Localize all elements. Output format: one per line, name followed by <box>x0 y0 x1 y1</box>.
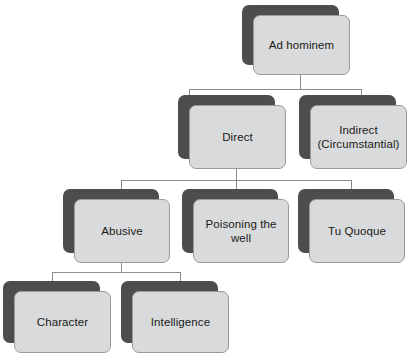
node-face: Indirect (Circumstantial) <box>310 105 407 169</box>
edge-abusive-bus <box>52 272 181 273</box>
node-indirect[interactable]: Indirect (Circumstantial) <box>299 95 407 169</box>
node-tu-quoque[interactable]: Tu Quoque <box>298 189 405 263</box>
node-ad-hominem[interactable]: Ad hominem <box>242 5 350 75</box>
node-direct[interactable]: Direct <box>178 95 286 169</box>
edge-direct-stem <box>236 168 237 180</box>
node-label: Poisoning the well <box>202 217 281 245</box>
node-poisoning-the-well[interactable]: Poisoning the well <box>182 189 289 263</box>
node-face: Tu Quoque <box>309 199 405 263</box>
node-label: Abusive <box>97 224 147 238</box>
edge-direct-to-abusive <box>121 180 122 189</box>
edge-direct-to-tu-quoque <box>351 180 352 189</box>
edge-abusive-to-intelligence <box>180 272 181 281</box>
node-face: Intelligence <box>132 291 229 353</box>
node-label: Tu Quoque <box>324 224 390 238</box>
edge-root-stem <box>300 73 301 90</box>
node-face: Poisoning the well <box>193 199 289 263</box>
node-intelligence[interactable]: Intelligence <box>121 281 229 353</box>
node-face: Ad hominem <box>253 15 350 75</box>
node-label: Direct <box>218 130 257 144</box>
node-label: Character <box>33 315 92 329</box>
node-abusive[interactable]: Abusive <box>63 189 170 263</box>
node-face: Character <box>14 291 111 353</box>
edge-direct-to-poisoning <box>236 180 237 189</box>
diagram-canvas: Ad hominem Direct Indirect (Circumstanti… <box>0 0 410 357</box>
node-face: Abusive <box>74 199 170 263</box>
node-label: Indirect (Circumstantial) <box>313 123 403 151</box>
edge-abusive-to-character <box>52 272 53 281</box>
edge-abusive-stem <box>121 262 122 272</box>
node-label: Intelligence <box>147 315 214 329</box>
node-label: Ad hominem <box>265 38 339 52</box>
edge-root-bus <box>189 89 362 90</box>
node-face: Direct <box>189 105 286 169</box>
node-character[interactable]: Character <box>3 281 111 353</box>
